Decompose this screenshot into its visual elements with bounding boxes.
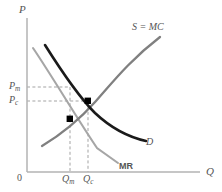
axis-lines xyxy=(27,18,200,172)
supply-mc-curve-label-text: S = MC xyxy=(132,21,164,32)
competitive-point-marker xyxy=(85,98,91,104)
marginal-revenue-curve xyxy=(33,48,118,163)
monopoly-point-marker xyxy=(67,116,73,122)
price-tick-pc: Pc xyxy=(9,95,18,105)
economics-diagram: P Q 0 Pm Pc Qm Qc S = MC D MR xyxy=(0,0,222,192)
marginal-revenue-curve-label: MR xyxy=(119,162,133,171)
x-axis-label: Q xyxy=(206,166,214,177)
guide-lines xyxy=(27,87,88,172)
demand-curve xyxy=(45,45,146,141)
supply-mc-curve-label: S = MC xyxy=(132,22,164,32)
demand-curve-label: D xyxy=(146,137,153,147)
quantity-tick-qm-subscript: m xyxy=(69,178,74,186)
diagram-canvas xyxy=(0,0,222,192)
quantity-tick-qc: Qc xyxy=(83,174,93,184)
quantity-tick-qm: Qm xyxy=(62,174,74,184)
quantity-tick-qc-subscript: c xyxy=(90,178,93,186)
price-tick-pc-subscript: c xyxy=(15,99,18,107)
price-tick-pm: Pm xyxy=(9,81,20,91)
price-tick-pm-subscript: m xyxy=(15,85,20,93)
origin-label: 0 xyxy=(17,173,22,183)
y-axis-label: P xyxy=(19,4,26,15)
